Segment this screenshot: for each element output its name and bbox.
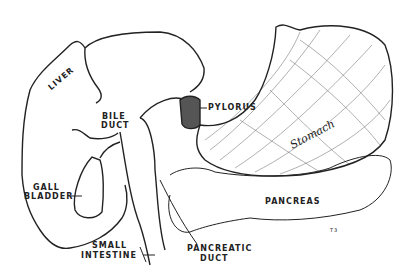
gall-bladder-label-2: BLADDER — [24, 192, 73, 202]
artist-signature: T3 — [330, 225, 338, 235]
small-intestine-label-2: INTESTINE — [81, 251, 137, 261]
pancreatic-duct-label-1: PANCREATIC — [187, 244, 252, 254]
stomach-outline — [197, 25, 393, 176]
bile-duct — [72, 130, 120, 158]
pancreatic-duct — [160, 180, 197, 244]
small-intestine-label-1: SMALL — [92, 241, 127, 251]
anatomy-drawing — [0, 0, 408, 278]
pancreas-label: PANCREAS — [265, 197, 320, 207]
stomach-hatching — [205, 30, 390, 174]
leader-lines — [71, 108, 207, 262]
pancreatic-duct-label-2: DUCT — [200, 254, 228, 264]
pylorus-label: PYLORUS — [208, 103, 257, 113]
gall-bladder — [74, 157, 103, 218]
liver-lobe-notch — [85, 48, 101, 103]
duodenum-top — [140, 98, 185, 118]
pylorus — [180, 96, 200, 128]
bile-duct-label-2: DUCT — [101, 121, 129, 131]
liver-top — [85, 32, 204, 92]
pancreas-outline — [169, 155, 392, 232]
